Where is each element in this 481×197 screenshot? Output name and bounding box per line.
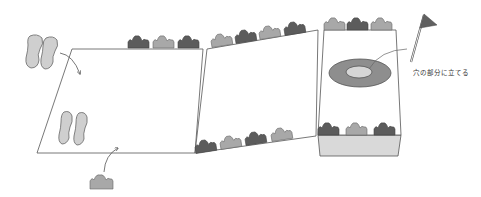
shrub-row-top-right [324,18,392,30]
footprints-icon-outside [26,35,58,69]
golf-course-diagram: 穴の部分に立てる [0,0,481,197]
box-base [318,135,401,156]
shrub-icon-outside [90,175,113,189]
flag-icon [411,14,437,62]
diagram-canvas [0,0,481,197]
shrub-row-bottom-right [318,123,395,135]
shrub-row-top-left [128,36,199,48]
hole-target [329,59,391,87]
flag-note-label: 穴の部分に立てる [413,67,469,77]
